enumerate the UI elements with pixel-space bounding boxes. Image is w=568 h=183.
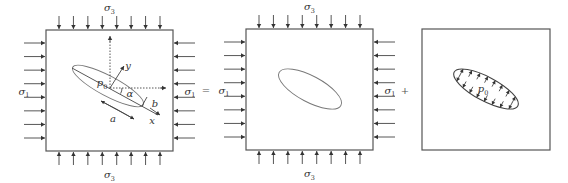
arrow-head xyxy=(41,82,45,86)
right-stress-arrow xyxy=(374,67,395,71)
left-stress-arrow xyxy=(24,54,45,58)
top-stress-arrow xyxy=(343,15,347,28)
sigma3-bottom-label: σ3 xyxy=(304,168,315,182)
arrow-head xyxy=(329,151,333,155)
arrow-head xyxy=(271,24,275,28)
left-stress-arrow xyxy=(224,81,245,85)
arrow-head xyxy=(374,135,378,139)
arrow-head xyxy=(315,24,319,28)
right-stress-arrow xyxy=(174,109,195,113)
alpha-label: α xyxy=(127,88,134,99)
top-stress-arrow xyxy=(271,15,275,28)
bottom-stress-arrow xyxy=(71,152,75,165)
right-stress-arrow xyxy=(174,54,195,58)
arrow-head xyxy=(241,40,245,44)
right-stress-arrow xyxy=(374,40,395,44)
arrow-head xyxy=(143,25,147,29)
arrow-head xyxy=(358,24,362,28)
top-stress-arrow xyxy=(329,15,333,28)
top-stress-arrow xyxy=(57,16,61,29)
arrow-head xyxy=(41,109,45,113)
right-stress-arrow xyxy=(374,135,395,139)
right-stress-arrow xyxy=(174,122,195,126)
bottom-stress-arrow xyxy=(129,152,133,165)
left-stress-arrow xyxy=(224,121,245,125)
top-stress-arrow xyxy=(129,16,133,29)
arrow-head xyxy=(241,53,245,57)
arrow-head xyxy=(41,136,45,140)
top-stress-arrow xyxy=(358,15,362,28)
arrow-head xyxy=(57,25,61,29)
arrow-head xyxy=(129,25,133,29)
arrow-head xyxy=(241,67,245,71)
crack-superposition-diagram: σ3σ3σ1σ1yxαp0abσ3σ3σ1σ1p0 = + xyxy=(0,0,568,183)
axis-x-label: x xyxy=(149,115,155,126)
arrow-head xyxy=(41,54,45,58)
arrow-head xyxy=(158,152,162,156)
arrow-head xyxy=(174,41,178,45)
arrow-head xyxy=(174,122,178,126)
left-stress-arrow xyxy=(24,68,45,72)
axis-y-label: y xyxy=(124,60,131,71)
arrow-head xyxy=(143,152,147,156)
arrow-head xyxy=(174,54,178,58)
left-stress-arrow xyxy=(224,135,245,139)
arrow-head xyxy=(257,151,261,155)
arrow-head xyxy=(158,25,162,29)
arrow-head xyxy=(174,136,178,140)
bottom-stress-arrow xyxy=(100,152,104,165)
arrow-head xyxy=(71,152,75,156)
left-stress-arrow xyxy=(224,108,245,112)
bottom-stress-arrow xyxy=(57,152,61,165)
panel-far-field: σ3σ3σ1σ1 xyxy=(219,1,396,182)
arrow-head xyxy=(329,24,333,28)
arrow-head xyxy=(241,121,245,125)
left-stress-arrow xyxy=(24,122,45,126)
plus-operator: + xyxy=(401,85,409,96)
right-stress-arrow xyxy=(174,68,195,72)
arrow-head xyxy=(71,25,75,29)
sigma3-top-label: σ3 xyxy=(104,2,115,16)
arrow-head xyxy=(374,108,378,112)
top-stress-arrow xyxy=(158,16,162,29)
top-stress-arrow xyxy=(286,15,290,28)
arrow-head xyxy=(86,25,90,29)
arrow-head xyxy=(241,108,245,112)
bottom-stress-arrow xyxy=(158,152,162,165)
arrow-head xyxy=(100,152,104,156)
arrow-head xyxy=(41,41,45,45)
arrow-head xyxy=(174,109,178,113)
bottom-stress-arrow xyxy=(143,152,147,165)
right-stress-arrow xyxy=(174,41,195,45)
arrow-head xyxy=(374,81,378,85)
arrow-head xyxy=(300,151,304,155)
top-stress-arrow xyxy=(300,15,304,28)
top-stress-arrow xyxy=(115,16,119,29)
specimen-box xyxy=(246,29,373,150)
left-stress-arrow xyxy=(24,82,45,86)
bottom-stress-arrow xyxy=(343,151,347,164)
arrow-head xyxy=(286,151,290,155)
arrow-head xyxy=(358,151,362,155)
arrow-head xyxy=(374,121,378,125)
equals-operator: = xyxy=(202,85,210,96)
bottom-stress-arrow xyxy=(271,151,275,164)
arrow-head xyxy=(115,152,119,156)
right-stress-arrow xyxy=(374,108,395,112)
arrow-head xyxy=(257,24,261,28)
left-stress-arrow xyxy=(224,67,245,71)
arrow-head xyxy=(41,122,45,126)
arrow-head xyxy=(41,68,45,72)
arrow-head xyxy=(241,135,245,139)
top-stress-arrow xyxy=(257,15,261,28)
right-stress-arrow xyxy=(374,53,395,57)
bottom-stress-arrow xyxy=(315,151,319,164)
bottom-stress-arrow xyxy=(329,151,333,164)
right-stress-arrow xyxy=(374,121,395,125)
specimen-box xyxy=(46,30,173,151)
arrow-head xyxy=(41,95,45,99)
arrow-head xyxy=(174,95,178,99)
left-stress-arrow xyxy=(24,41,45,45)
arrow-head xyxy=(343,24,347,28)
arrow-head xyxy=(374,94,378,98)
